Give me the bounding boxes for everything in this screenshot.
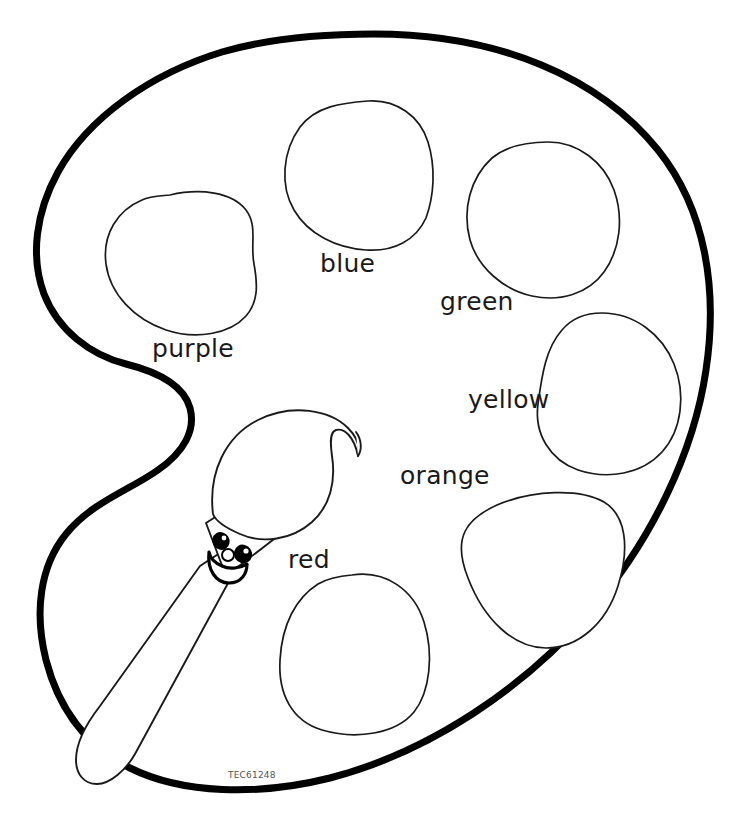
- paint-well-red: [280, 574, 430, 734]
- paint-well-label-red: red: [288, 545, 330, 574]
- coloring-page-canvas: purple blue green yellow orange red: [0, 0, 748, 840]
- paint-well-label-green: green: [440, 287, 514, 316]
- palette-artwork: purple blue green yellow orange red: [0, 0, 748, 840]
- paint-well-label-orange: orange: [400, 461, 490, 490]
- paint-well-label-purple: purple: [152, 334, 234, 363]
- brush-nose-icon: [222, 549, 234, 561]
- brush-left-eye-glint: [222, 536, 227, 541]
- brush-right-eye-glint: [243, 548, 248, 553]
- watermark-code: TEC61248: [227, 770, 276, 780]
- paint-well-label-blue: blue: [320, 249, 375, 278]
- paint-well-label-yellow: yellow: [468, 385, 550, 414]
